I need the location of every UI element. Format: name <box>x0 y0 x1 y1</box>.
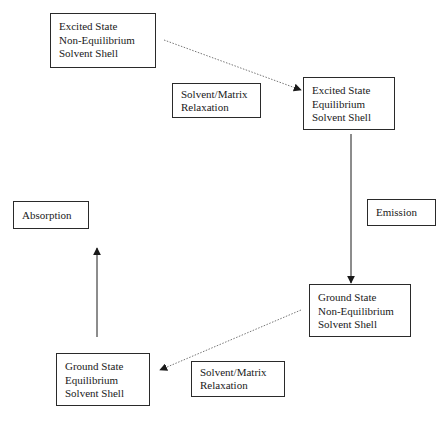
state-excited-nonequilibrium: Excited State Non-Equilibrium Solvent Sh… <box>50 13 156 68</box>
label-line: Solvent/Matrix <box>200 366 276 379</box>
state-line: Solvent Shell <box>59 47 147 61</box>
relaxation-top-label: Solvent/Matrix Relaxation <box>172 83 261 118</box>
state-line: Excited State <box>312 84 386 98</box>
label-line: Relaxation <box>181 101 252 114</box>
state-line: Ground State <box>318 291 402 305</box>
state-ground-nonequilibrium: Ground State Non-Equilibrium Solvent She… <box>309 284 411 337</box>
state-line: Non-Equilibrium <box>318 305 402 319</box>
label-line: Solvent/Matrix <box>181 88 252 101</box>
state-line: Equilibrium <box>65 374 141 388</box>
state-line: Equilibrium <box>312 98 386 112</box>
label-line: Relaxation <box>200 379 276 392</box>
state-ground-equilibrium: Ground State Equilibrium Solvent Shell <box>56 353 150 406</box>
label-text: Absorption <box>22 209 72 221</box>
state-line: Solvent Shell <box>318 318 402 332</box>
emission-label: Emission <box>367 199 436 226</box>
state-line: Excited State <box>59 20 147 34</box>
state-line: Solvent Shell <box>312 111 386 125</box>
state-line: Solvent Shell <box>65 387 141 401</box>
state-line: Ground State <box>65 360 141 374</box>
state-line: Non-Equilibrium <box>59 34 147 48</box>
label-text: Emission <box>376 206 417 218</box>
absorption-label: Absorption <box>13 201 89 229</box>
relaxation-bottom-label: Solvent/Matrix Relaxation <box>191 361 285 397</box>
state-excited-equilibrium: Excited State Equilibrium Solvent Shell <box>303 77 395 130</box>
